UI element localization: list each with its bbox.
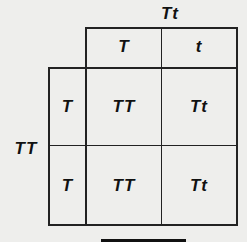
grid-line-header-bottom xyxy=(48,67,238,69)
grid-line-left-inner xyxy=(85,27,87,226)
top-parent-genotype: Tt xyxy=(145,5,195,22)
column-header-2: t xyxy=(162,38,236,55)
cell-row2-col1: TT xyxy=(87,177,161,194)
grid-line-left-outer xyxy=(48,67,50,226)
row-header-1: T xyxy=(50,98,85,115)
grid-line-right xyxy=(236,27,238,226)
grid-line-bottom xyxy=(48,224,238,226)
grid-line-middle-horizontal xyxy=(48,145,238,146)
cell-row1-col1: TT xyxy=(87,98,161,115)
left-parent-genotype: TT xyxy=(6,140,46,157)
row-header-2: T xyxy=(50,177,85,194)
cell-row1-col2: Tt xyxy=(162,98,236,115)
column-header-1: T xyxy=(87,38,161,55)
cell-row2-col2: Tt xyxy=(162,177,236,194)
grid-line-middle-vertical xyxy=(161,27,162,226)
